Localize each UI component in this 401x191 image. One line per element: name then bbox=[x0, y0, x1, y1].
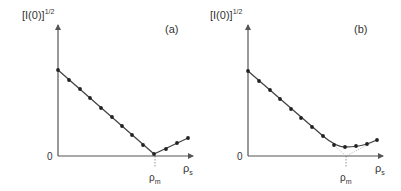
data-point bbox=[268, 88, 272, 92]
data-point bbox=[257, 79, 261, 83]
data-point bbox=[164, 147, 168, 151]
data-point bbox=[56, 68, 60, 72]
data-point bbox=[332, 143, 336, 147]
data-point bbox=[152, 152, 156, 156]
data-point bbox=[78, 87, 82, 91]
data-point bbox=[120, 124, 124, 128]
data-markers bbox=[56, 68, 190, 156]
data-line bbox=[58, 70, 188, 154]
panel-label: (a) bbox=[165, 23, 178, 35]
data-point bbox=[354, 144, 358, 148]
panel-b: [I(0)]1/2 (b) 0 ρs ρm bbox=[210, 8, 385, 185]
data-point bbox=[365, 142, 369, 146]
data-point bbox=[130, 133, 134, 137]
origin-label: 0 bbox=[237, 151, 243, 162]
data-markers bbox=[246, 69, 379, 149]
panel-label: (b) bbox=[354, 23, 367, 35]
data-point bbox=[88, 96, 92, 100]
data-point bbox=[99, 106, 103, 110]
data-point bbox=[141, 143, 145, 147]
data-point bbox=[278, 97, 282, 101]
x-axis-label: ρs bbox=[183, 162, 193, 176]
y-axis-label: [I(0)]1/2 bbox=[210, 8, 242, 21]
data-point bbox=[110, 115, 114, 119]
data-point bbox=[343, 145, 347, 149]
data-point bbox=[246, 69, 250, 73]
data-point bbox=[175, 141, 179, 145]
y-axis-label: [I(0)]1/2 bbox=[22, 8, 54, 21]
data-point bbox=[310, 125, 314, 129]
origin-label: 0 bbox=[47, 151, 53, 162]
data-point bbox=[289, 107, 293, 111]
data-point bbox=[321, 134, 325, 138]
panel-a: [I(0)]1/2 (a) 0 ρs ρm bbox=[22, 8, 193, 185]
data-point bbox=[375, 138, 379, 142]
data-point bbox=[186, 136, 190, 140]
data-point bbox=[299, 116, 303, 120]
x-axis-label: ρs bbox=[375, 162, 385, 176]
data-curve bbox=[248, 71, 377, 147]
data-point bbox=[67, 78, 71, 82]
rho-m-label: ρm bbox=[149, 172, 161, 185]
rho-m-label: ρm bbox=[340, 172, 352, 185]
figure: [I(0)]1/2 (a) 0 ρs ρm [I(0)]1/2 (b) 0 ρs… bbox=[0, 0, 401, 191]
